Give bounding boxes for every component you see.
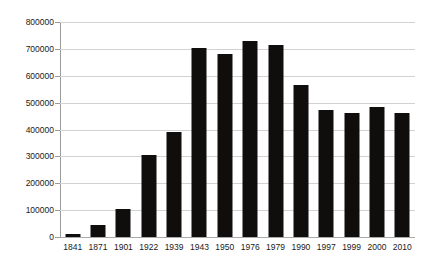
x-axis-tick-label: 2010	[393, 243, 412, 252]
x-axis-tick-label: 1841	[63, 243, 82, 252]
x-axis-tick-label: 1997	[317, 243, 336, 252]
y-axis-tick-label: 0	[0, 233, 54, 242]
y-axis-tick-label: 700000	[0, 45, 54, 54]
x-axis-tick-label: 1950	[215, 243, 234, 252]
y-axis-tick-label: 200000	[0, 179, 54, 188]
bar[interactable]	[192, 48, 207, 237]
bar-slot	[187, 22, 212, 237]
bar[interactable]	[293, 85, 308, 237]
bar-slot	[288, 22, 313, 237]
x-axis-tick-label: 1943	[190, 243, 209, 252]
bar[interactable]	[91, 225, 106, 237]
y-axis-tick-label: 500000	[0, 98, 54, 107]
bar-slot	[263, 22, 288, 237]
bar[interactable]	[344, 113, 359, 237]
bar-slot	[339, 22, 364, 237]
x-axis-tick-label: 1871	[89, 243, 108, 252]
x-axis-tick-label: 1901	[114, 243, 133, 252]
x-axis-baseline	[60, 237, 415, 238]
bar[interactable]	[167, 132, 182, 237]
bar-slot	[390, 22, 415, 237]
bar[interactable]	[65, 234, 80, 237]
x-axis-tick-label: 1976	[241, 243, 260, 252]
y-axis-tick-label: 800000	[0, 18, 54, 27]
bar[interactable]	[395, 113, 410, 237]
x-axis-tick-label: 2000	[367, 243, 386, 252]
bar-slot	[161, 22, 186, 237]
bar[interactable]	[141, 155, 156, 237]
x-axis-tick-label: 1979	[266, 243, 285, 252]
bar-slot	[238, 22, 263, 237]
bar[interactable]	[369, 107, 384, 237]
bar-slot	[212, 22, 237, 237]
bar[interactable]	[217, 54, 232, 237]
bar[interactable]	[268, 45, 283, 237]
plot-area	[60, 22, 415, 237]
bar[interactable]	[319, 110, 334, 237]
bar-slot	[314, 22, 339, 237]
x-axis-tick-label: 1922	[139, 243, 158, 252]
bar-slot	[111, 22, 136, 237]
y-axis-tick-label: 300000	[0, 152, 54, 161]
bar[interactable]	[243, 41, 258, 237]
y-axis-tick-label: 100000	[0, 206, 54, 215]
y-axis-tick-label: 400000	[0, 125, 54, 134]
bar-slot	[136, 22, 161, 237]
x-axis-tick-label: 1990	[291, 243, 310, 252]
bar-chart: 8000007000006000005000004000003000002000…	[0, 0, 430, 270]
x-axis-tick-label: 1999	[342, 243, 361, 252]
x-axis-tick-label: 1939	[165, 243, 184, 252]
y-axis-tick-label: 600000	[0, 72, 54, 81]
bar-slot	[364, 22, 389, 237]
bar[interactable]	[116, 209, 131, 237]
bar-slot	[60, 22, 85, 237]
bar-slot	[85, 22, 110, 237]
